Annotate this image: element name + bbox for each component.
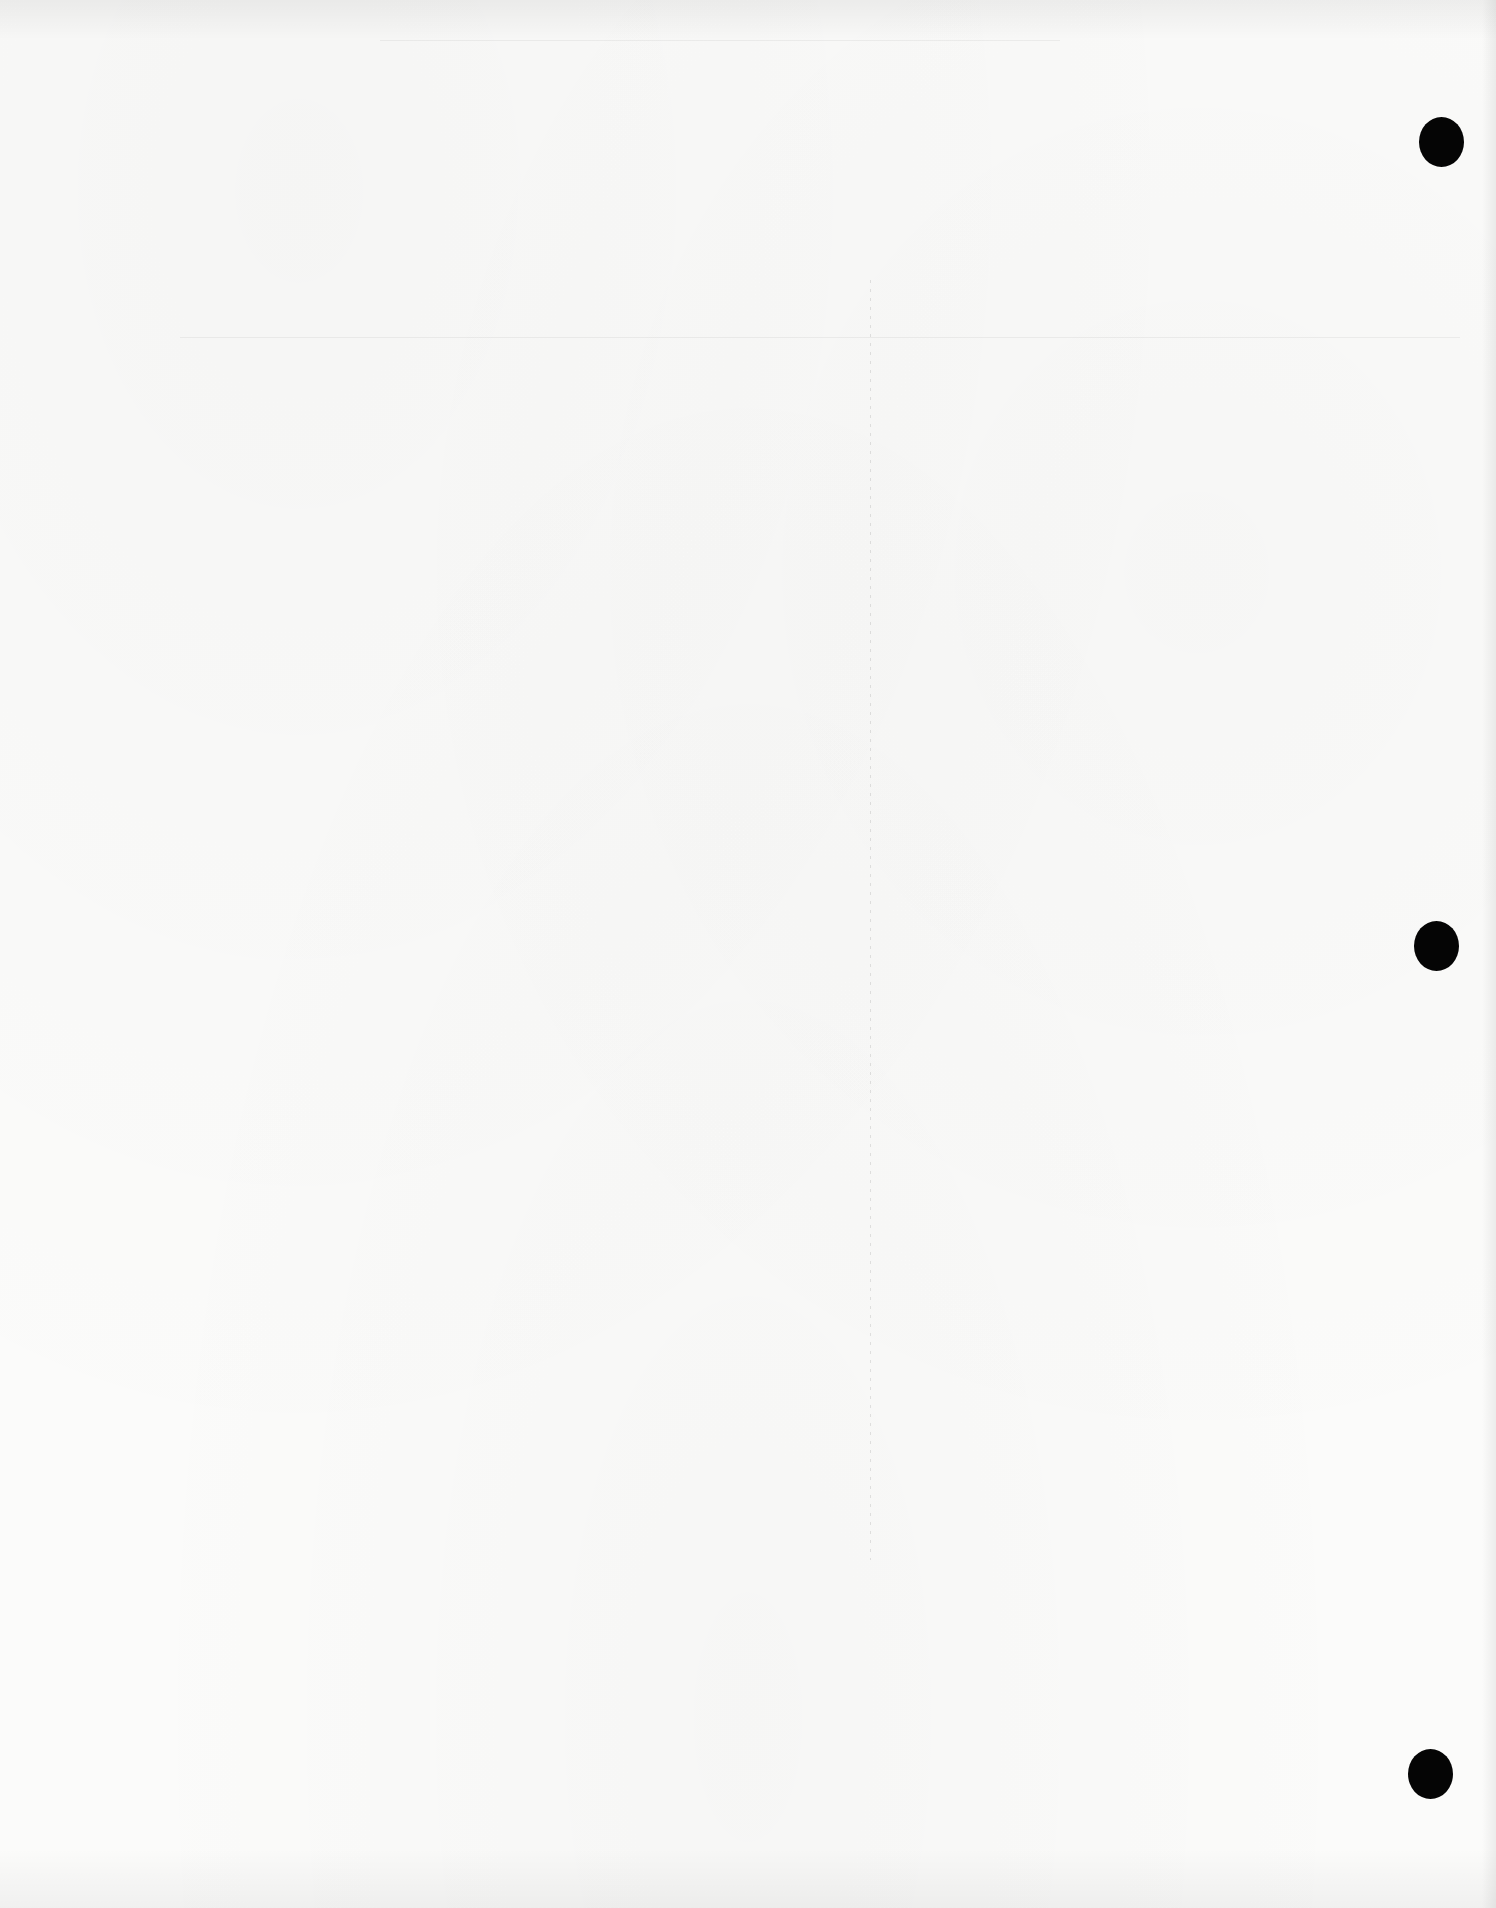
punch-hole-top	[1419, 117, 1464, 167]
faint-horizontal-rule	[180, 337, 1460, 338]
punch-hole-bottom	[1408, 1749, 1453, 1799]
punch-hole-middle	[1414, 921, 1459, 971]
scan-edge-shadow-right	[1482, 0, 1496, 1908]
fold-line	[870, 280, 871, 1560]
scan-edge-shadow-bottom	[0, 1848, 1496, 1908]
scan-edge-shadow-top	[0, 0, 1496, 40]
scanned-page	[0, 0, 1496, 1908]
faint-horizontal-rule	[380, 40, 1060, 41]
